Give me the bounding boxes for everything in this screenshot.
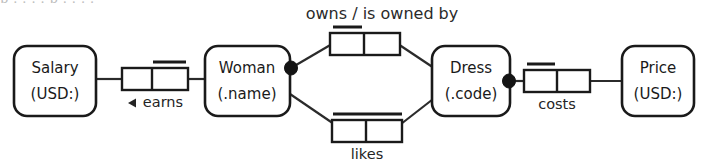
connector-owns-dress: [398, 44, 434, 68]
entity-dress[interactable]: Dress (.code): [432, 46, 516, 116]
entity-woman-refmode: (.name): [217, 85, 276, 103]
fact-type-likes[interactable]: likes: [332, 114, 402, 161]
connector-woman-likes: [290, 94, 334, 124]
entity-salary-shape: [14, 46, 96, 116]
fact-type-costs-label: costs: [538, 96, 576, 112]
entity-price-shape: [622, 46, 694, 116]
fact-type-earns[interactable]: earns: [122, 62, 188, 110]
fact-type-owns[interactable]: owns / is owned by: [306, 4, 459, 56]
entity-dress-refmode: (.code): [445, 85, 498, 103]
entity-price-refmode: (USD:): [634, 85, 683, 103]
entity-woman-name: Woman: [219, 59, 275, 77]
entity-salary[interactable]: Salary (USD:): [14, 46, 96, 116]
entity-woman-shape: [205, 46, 290, 116]
fact-type-earns-direction-arrow: [128, 99, 136, 108]
fact-type-earns-label: earns: [143, 94, 183, 110]
fact-type-earns-box: [122, 68, 188, 90]
orm-diagram: p . . . . p . . . . Salary (USD:): [0, 0, 703, 161]
entity-dress-name: Dress: [450, 59, 492, 77]
entity-price-name: Price: [640, 59, 677, 77]
entity-price[interactable]: Price (USD:): [622, 46, 694, 116]
dress-mandatory-role-dot: [503, 74, 516, 88]
entity-salary-refmode: (USD:): [31, 85, 80, 103]
woman-mandatory-role-dot: [285, 61, 298, 75]
orm-diagram-canvas: Salary (USD:) earns Woman (.name) owns /…: [0, 0, 703, 161]
fact-type-likes-label: likes: [351, 146, 383, 161]
fact-type-owns-label: owns / is owned by: [306, 4, 459, 23]
entity-dress-shape: [432, 46, 510, 116]
entity-woman[interactable]: Woman (.name): [205, 46, 298, 116]
fact-type-costs[interactable]: costs: [524, 64, 590, 112]
entity-salary-name: Salary: [31, 59, 78, 77]
